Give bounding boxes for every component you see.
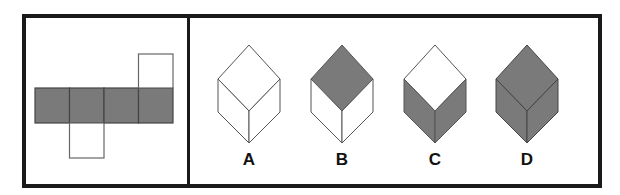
net-face-3 xyxy=(104,88,139,123)
option-label-d: D xyxy=(512,150,542,170)
option-label-c: C xyxy=(420,150,450,170)
cube-net xyxy=(35,54,173,158)
cube-option-b[interactable] xyxy=(311,45,373,143)
cube-option-a[interactable] xyxy=(218,45,280,143)
net-face-top xyxy=(139,54,174,88)
net-face-4 xyxy=(139,88,174,123)
net-face-1 xyxy=(35,88,70,123)
net-face-bottom xyxy=(70,123,105,158)
option-label-a: A xyxy=(234,150,264,170)
net-face-2 xyxy=(70,88,105,123)
option-label-b: B xyxy=(327,150,357,170)
cube-option-d[interactable] xyxy=(496,45,558,143)
cube-option-c[interactable] xyxy=(404,45,466,143)
